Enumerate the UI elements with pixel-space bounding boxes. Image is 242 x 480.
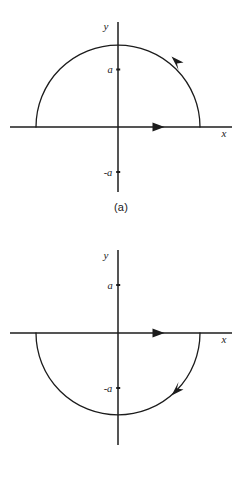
diagram-panel-a: y x a -a (a) [0,0,242,240]
x-axis-direction-arrow-b [153,329,165,338]
y-axis-label-b: y [103,249,109,261]
tick-mark-minus-a-a [116,171,120,173]
x-axis-direction-arrow-a [153,123,165,132]
value-label-b-negative-a: -a [104,383,113,394]
contour-diagram-b: y x a -a [0,240,242,460]
x-axis-label-b: x [221,333,227,345]
diagram-panel-b: y x a -a (b) [0,240,242,480]
contour-diagram-a: y x a -a [0,0,242,200]
tick-mark-minus-a-b [116,387,120,389]
x-axis-label-a: x [221,127,227,139]
value-label-a-negative-a: -a [104,167,113,178]
tick-mark-a-a [116,69,120,71]
value-label-a-positive-a: a [107,64,112,75]
tick-mark-a-b [116,284,120,286]
arc-direction-arrow-a [172,57,184,71]
panel-caption-a: (a) [0,201,242,213]
y-axis-label-a: y [103,20,109,32]
value-label-b-positive-a: a [107,280,112,291]
figure-container: y x a -a (a) y x [0,0,242,480]
